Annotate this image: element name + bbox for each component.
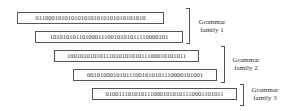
family-3-bracket [240, 84, 244, 106]
family-1-label-line1: Grammar [192, 18, 232, 26]
binary-string-4: 001010001010111001010101110000101001 [73, 69, 217, 81]
family-1-label: Grammar family 1 [192, 18, 232, 34]
binary-string-3: 1001010101011101010101011100010101011 [54, 50, 199, 62]
binary-string-5: 0100111010101110001010101110001101011 [92, 88, 237, 100]
family-1-label-line2: family 1 [192, 26, 232, 34]
family-3-label: Grammar family 3 [245, 86, 285, 102]
family-2-label: Grammar family 2 [226, 56, 266, 72]
family-3-label-line1: Grammar [245, 86, 285, 94]
family-3-label-line2: family 3 [245, 94, 285, 102]
family-2-label-line1: Grammar [226, 56, 266, 64]
family-1-bracket [186, 8, 190, 44]
family-2-label-line2: family 2 [226, 64, 266, 72]
binary-string-1: 0110001010101010101010101010101010 [17, 12, 164, 24]
binary-string-2: 1010101011010001110010101011110000101 [35, 31, 183, 43]
family-2-bracket [221, 46, 225, 83]
